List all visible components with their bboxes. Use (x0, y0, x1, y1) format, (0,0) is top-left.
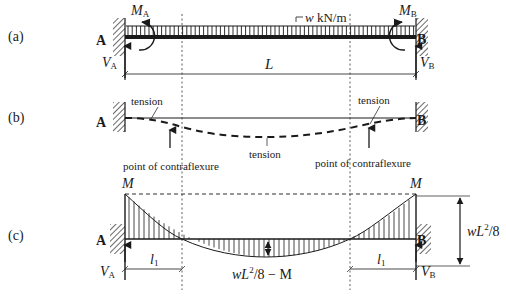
mid-moment-label: wL2/8 − M (232, 265, 292, 282)
panel-c: (c) M M A B VA VB l1 l1 wL2/8 − M (8, 176, 500, 282)
contraflexure-right-label: point of contraflexure (315, 157, 411, 169)
panel-b: (b) A B tension tension tension point of… (8, 94, 428, 172)
reaction-b-label: VB (420, 55, 435, 71)
support-a-label-b: A (96, 115, 107, 130)
span-label: L (264, 56, 273, 72)
panel-a-tag: (a) (8, 29, 24, 45)
support-a-label: A (96, 33, 107, 48)
contraflexure-left-label: point of contraflexure (123, 160, 219, 172)
reaction-a-label-c: VA (100, 264, 116, 280)
reaction-a-label: VA (102, 55, 118, 71)
moment-left-label: M (121, 176, 135, 191)
beam-a (125, 35, 416, 39)
moment-right-label: M (409, 176, 423, 191)
tension-left-label: tension (131, 95, 163, 107)
bending-moment-curve (125, 194, 416, 257)
reaction-b-label-c: VB (421, 264, 436, 280)
moment-b-label: MB (398, 3, 417, 19)
fixed-support-a-wall (113, 18, 125, 56)
l1-right-label: l1 (377, 252, 385, 268)
support-b-label-b: B (417, 113, 426, 128)
l1-left-label: l1 (150, 252, 158, 268)
fixed-support-a-wall-c (110, 224, 125, 254)
panel-b-tag: (b) (8, 110, 25, 126)
deflected-shape-curve (125, 118, 416, 137)
panel-a: (a) w kN/m MA MB VA VB A B L (8, 3, 435, 80)
udl-load (126, 26, 415, 35)
load-label: w kN/m (305, 10, 347, 25)
total-moment-label: wL2/8 (467, 222, 500, 239)
tension-mid-label: tension (249, 148, 281, 160)
tension-right-label: tension (358, 94, 390, 106)
panel-c-tag: (c) (8, 228, 24, 244)
support-b-label-c: B (417, 233, 426, 248)
bending-moment-hatching (129, 197, 409, 257)
fixed-support-a-wall-b (113, 102, 125, 132)
support-b-label: B (417, 32, 426, 47)
support-a-label-c: A (96, 233, 107, 248)
moment-a-label: MA (130, 3, 150, 19)
fixed-beam-diagram: (a) w kN/m MA MB VA VB A B L (0, 0, 506, 298)
